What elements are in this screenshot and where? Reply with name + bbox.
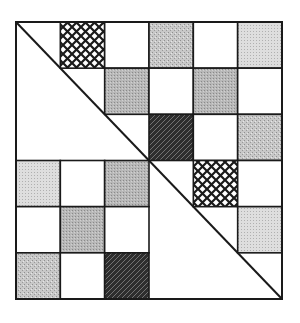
grid-cell-white bbox=[105, 22, 149, 68]
quilt-diagram bbox=[0, 0, 300, 323]
grid-cell-medium-gray bbox=[105, 68, 149, 114]
grid-cell-textured-gray bbox=[16, 253, 60, 299]
grid-cell-crosshatch bbox=[193, 161, 237, 207]
grid-cell-medium-gray bbox=[193, 68, 237, 114]
grid-cell-light-gray bbox=[16, 161, 60, 207]
grid-cell-white bbox=[193, 22, 237, 68]
grid-cell-white bbox=[193, 114, 237, 160]
grid-cell-medium-gray bbox=[105, 161, 149, 207]
grid-cell-white bbox=[149, 68, 193, 114]
grid-cell-textured-gray bbox=[238, 114, 282, 160]
grid-cell-light-gray bbox=[238, 22, 282, 68]
grid-cell-light-gray bbox=[238, 207, 282, 253]
grid-cell-dark-hatch bbox=[149, 114, 193, 160]
grid-cell-medium-gray bbox=[60, 207, 104, 253]
grid-cell-white bbox=[238, 161, 282, 207]
grid-cell-white bbox=[105, 207, 149, 253]
grid-cell-crosshatch bbox=[60, 22, 104, 68]
grid-cell-white bbox=[16, 207, 60, 253]
grid-cell-dark-hatch bbox=[105, 253, 149, 299]
grid-cell-white bbox=[60, 161, 104, 207]
grid-cell-white bbox=[60, 253, 104, 299]
grid-cell-textured-gray bbox=[149, 22, 193, 68]
grid-cell-white bbox=[238, 68, 282, 114]
